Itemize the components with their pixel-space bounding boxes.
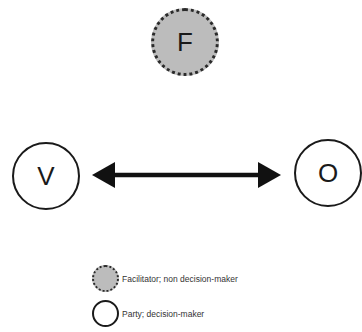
party-node-o-label: O <box>318 158 338 189</box>
party-node-v-label: V <box>37 161 54 192</box>
party-swatch-icon <box>92 300 119 327</box>
facilitator-swatch-icon <box>92 265 119 292</box>
legend-label: Party; decision-maker <box>122 309 204 319</box>
facilitator-node-label: F <box>177 27 193 58</box>
party-node-v: V <box>12 142 80 210</box>
facilitator-node: F <box>151 8 219 76</box>
legend-item-facilitator: Facilitator; non decision-maker <box>92 265 238 292</box>
legend-label: Facilitator; non decision-maker <box>122 274 238 284</box>
legend-item-party: Party; decision-maker <box>92 300 204 327</box>
bidirectional-arrow-icon <box>90 160 284 190</box>
party-node-o: O <box>294 139 362 207</box>
